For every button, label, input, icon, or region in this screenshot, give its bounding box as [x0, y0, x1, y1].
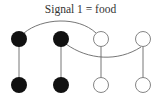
- node-filled-top-2: [53, 31, 69, 47]
- node-open-top-3: [94, 32, 109, 47]
- node-filled-bottom-2: [53, 77, 69, 93]
- signal-network-diagram: [0, 0, 161, 100]
- node-open-bottom-4: [136, 78, 151, 93]
- node-filled-bottom-1: [11, 77, 27, 93]
- nodes: [11, 31, 151, 93]
- edges: [19, 21, 143, 85]
- node-open-bottom-3: [94, 78, 109, 93]
- node-filled-top-1: [11, 31, 27, 47]
- node-open-top-4: [136, 32, 151, 47]
